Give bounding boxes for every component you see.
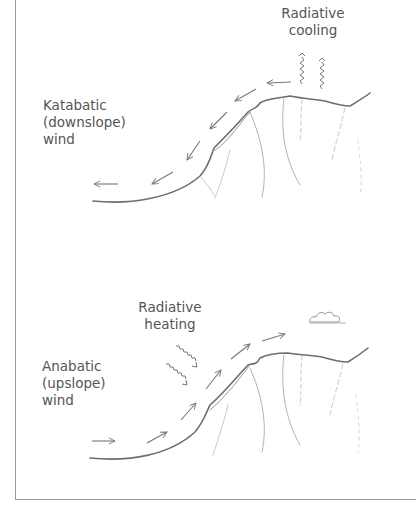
upslope-arrows	[92, 334, 285, 443]
cloud-icon	[309, 312, 346, 323]
mountain-top-icon	[93, 93, 370, 202]
mountain-bottom-icon	[90, 348, 368, 459]
radiative-cooling-icon	[299, 53, 325, 89]
downslope-arrows	[94, 82, 291, 184]
radiative-heating-icon	[166, 346, 197, 385]
